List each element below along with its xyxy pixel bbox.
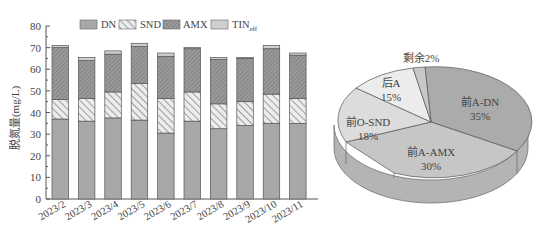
segment-dn — [105, 118, 122, 199]
segment-snd — [210, 104, 227, 129]
segment-dn — [78, 121, 95, 199]
y-tick-label: 40 — [30, 107, 42, 119]
y-tick-label: 20 — [30, 150, 42, 162]
bar-2023-7 — [184, 48, 201, 199]
y-ticks: 01020304050607080 — [30, 20, 50, 205]
slice-rest — [413, 67, 431, 122]
y-tick-label: 10 — [30, 171, 42, 183]
y-tick-label: 70 — [30, 42, 42, 54]
legend: DN SND AMX TINeff — [80, 19, 258, 33]
segment-amx — [210, 60, 227, 104]
bar-2023-3 — [78, 57, 95, 199]
segment-dn — [263, 123, 280, 199]
legend-label-snd: SND — [140, 19, 161, 30]
legend-item-snd: SND — [119, 19, 161, 30]
bar-2023-10 — [263, 45, 280, 199]
legend-label-amx: AMX — [183, 19, 208, 30]
legend-swatch-dn — [80, 20, 97, 29]
segment-dn — [184, 121, 201, 199]
segment-amx — [158, 56, 175, 98]
segment-snd — [131, 83, 148, 120]
bar-2023-4 — [105, 51, 122, 199]
bar-2023-2 — [52, 45, 69, 199]
slice-o-snd — [338, 88, 431, 142]
segment-amx — [263, 49, 280, 94]
segment-amx — [105, 54, 122, 92]
segment-amx — [290, 55, 307, 98]
segment-tineff — [105, 51, 122, 54]
x-tick-label: 2023/8 — [195, 198, 226, 222]
y-tick-label: 0 — [36, 193, 42, 205]
slice-post-a — [356, 68, 431, 122]
segment-snd — [263, 94, 280, 123]
y-axis-label: 脱氮量(mg/L) — [8, 86, 22, 150]
y-tick-label: 80 — [30, 20, 42, 32]
legend-item-dn: DN — [80, 19, 117, 30]
legend-swatch-snd — [119, 20, 136, 29]
label-a-amx-name: 前A-AMX — [407, 145, 455, 158]
x-tick-label: 2023/5 — [116, 198, 147, 222]
legend-label-tin: TINeff — [232, 19, 258, 33]
legend-swatch-tin — [211, 20, 228, 29]
segment-dn — [131, 120, 148, 199]
segment-tineff — [131, 43, 148, 46]
pie-labels: 前A-DN 35% 前A-AMX 30% 前O-SND 18% 后A 15% 剩… — [346, 51, 500, 172]
segment-snd — [290, 98, 307, 123]
segment-snd — [158, 98, 175, 133]
segment-snd — [78, 98, 95, 121]
segment-dn — [52, 119, 69, 199]
label-a-dn-pct: 35% — [470, 110, 490, 122]
x-tick-label: 2023/3 — [63, 198, 94, 222]
segment-tineff — [290, 53, 307, 55]
x-tick-label: 2023/4 — [89, 198, 120, 222]
y-tick-label: 50 — [30, 85, 42, 97]
y-tick-label: 30 — [30, 128, 42, 140]
segment-dn — [237, 125, 254, 199]
segment-amx — [237, 58, 254, 101]
label-post-a-pct: 15% — [381, 91, 401, 103]
segment-amx — [131, 47, 148, 84]
segment-amx — [184, 49, 201, 92]
label-rest: 剩余2% — [403, 51, 440, 64]
pie-side — [334, 125, 528, 203]
segment-snd — [237, 102, 254, 126]
label-a-dn-name: 前A-DN — [461, 95, 500, 108]
segment-dn — [290, 123, 307, 199]
segment-snd — [184, 92, 201, 121]
segment-amx — [52, 48, 69, 100]
segment-tineff — [263, 45, 280, 48]
x-tick-label: 2023/2 — [36, 198, 67, 222]
pie-top — [338, 67, 532, 178]
segment-tineff — [158, 53, 175, 56]
bar-2023-11 — [290, 53, 307, 199]
x-tick-label: 2023/6 — [142, 198, 173, 222]
bar-2023-9 — [237, 57, 254, 199]
segment-amx — [78, 61, 95, 99]
segment-tineff — [52, 45, 69, 47]
segment-tineff — [237, 57, 254, 58]
x-tick-label: 2023/7 — [168, 198, 199, 222]
label-o-snd-name: 前O-SND — [346, 115, 391, 128]
bar-2023-5 — [131, 43, 148, 199]
legend-item-amx: AMX — [163, 19, 208, 30]
x-tick-labels: 2023/22023/32023/42023/52023/62023/72023… — [36, 198, 304, 225]
slice-a-amx — [346, 122, 517, 178]
legend-item-tin: TINeff — [211, 19, 258, 33]
label-post-a-name: 后A — [382, 77, 401, 89]
segment-tineff — [184, 48, 201, 49]
bars — [52, 43, 306, 199]
segment-tineff — [210, 57, 227, 59]
stacked-bar-chart: 01020304050607080 脱氮量(mg/L) 2023/22023/3… — [0, 0, 330, 240]
bar-2023-8 — [210, 57, 227, 199]
label-a-amx-pct: 30% — [421, 160, 441, 172]
segment-dn — [158, 133, 175, 199]
segment-dn — [210, 129, 227, 199]
legend-swatch-amx — [163, 20, 180, 29]
segment-tineff — [78, 57, 95, 60]
segment-snd — [105, 92, 122, 118]
bar-2023-6 — [158, 53, 175, 199]
y-tick-label: 60 — [30, 63, 42, 75]
segment-snd — [52, 100, 69, 119]
label-o-snd-pct: 18% — [358, 130, 378, 142]
legend-label-dn: DN — [101, 19, 117, 30]
